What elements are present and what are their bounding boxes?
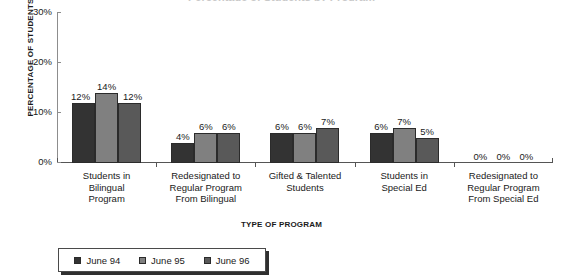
category-label-line: From Bilingual bbox=[152, 193, 259, 205]
bar-slot: 0% bbox=[515, 12, 538, 163]
x-axis-category-label: Students inBilingualProgram bbox=[53, 170, 160, 205]
bar-slot: 6% bbox=[194, 12, 217, 163]
category-label-line: Special Ed bbox=[351, 182, 458, 194]
bar-slot: 6% bbox=[370, 12, 393, 163]
category-label-line: Bilingual bbox=[53, 182, 160, 194]
bar[interactable] bbox=[118, 103, 141, 163]
bar-group-bars: 6%7%5% bbox=[355, 12, 454, 163]
bar-group-bars: 0%0%0% bbox=[454, 12, 553, 163]
bar-value-label: 7% bbox=[311, 116, 345, 127]
bar-slot: 6% bbox=[270, 12, 293, 163]
category-label-line: Students in bbox=[351, 170, 458, 182]
category-label-line: Redesignated to bbox=[450, 170, 557, 182]
bar-slot: 7% bbox=[316, 12, 339, 163]
category-label-line: Regular Program bbox=[450, 182, 557, 194]
legend-swatch-icon bbox=[74, 257, 81, 264]
category-label-line: Regular Program bbox=[152, 182, 259, 194]
bar-value-label: 12% bbox=[116, 91, 150, 102]
y-axis-tick-label: 20% bbox=[16, 56, 52, 67]
category-label-line: Gifted & Talented bbox=[251, 170, 358, 182]
x-axis-title: TYPE OF PROGRAM bbox=[0, 220, 563, 229]
legend-swatch-icon bbox=[139, 257, 146, 264]
bar-slot: 14% bbox=[95, 12, 118, 163]
bar[interactable] bbox=[316, 128, 339, 163]
bar[interactable] bbox=[95, 93, 118, 163]
legend-item[interactable]: June 94 bbox=[74, 255, 120, 266]
x-axis-tick bbox=[255, 163, 256, 167]
bar-slot: 6% bbox=[217, 12, 240, 163]
x-axis-tick bbox=[454, 163, 455, 167]
x-axis-category-label: Gifted & TalentedStudents bbox=[251, 170, 358, 193]
x-axis-tick bbox=[156, 163, 157, 167]
y-axis-tick-label: 30% bbox=[16, 6, 52, 17]
bar-group: 6%6%7% bbox=[255, 12, 354, 163]
bar[interactable] bbox=[416, 138, 439, 163]
x-axis-category-label: Redesignated toRegular ProgramFrom Speci… bbox=[450, 170, 557, 205]
bar[interactable] bbox=[72, 103, 95, 163]
y-axis-tick-label: 10% bbox=[16, 106, 52, 117]
bar[interactable] bbox=[217, 133, 240, 163]
category-label-line: Redesignated to bbox=[152, 170, 259, 182]
bar-group-bars: 12%14%12% bbox=[57, 12, 156, 163]
category-label-line: Students in bbox=[53, 170, 160, 182]
bar-value-label: 12% bbox=[64, 91, 98, 102]
y-axis-title: PERCENTAGE OF STUDENTS bbox=[26, 0, 35, 143]
chart-title: Percentage of Students by Program bbox=[0, 0, 563, 1]
legend-label: June 96 bbox=[216, 255, 250, 266]
legend-label: June 94 bbox=[86, 255, 120, 266]
bar-slot: 6% bbox=[293, 12, 316, 163]
bar-group: 6%7%5% bbox=[355, 12, 454, 163]
bar-slot: 4% bbox=[171, 12, 194, 163]
bar-chart: Percentage of Students by Program PERCEN… bbox=[0, 0, 563, 280]
category-label-line: Students bbox=[251, 182, 358, 194]
bar[interactable] bbox=[293, 133, 316, 163]
x-axis-category-label: Students inSpecial Ed bbox=[351, 170, 458, 193]
bar-value-label: 5% bbox=[410, 126, 444, 137]
category-label-line: From Special Ed bbox=[450, 193, 557, 205]
bar-group: 4%6%6% bbox=[156, 12, 255, 163]
bar-value-label: 6% bbox=[212, 121, 246, 132]
category-label-line: Program bbox=[53, 193, 160, 205]
bar-group: 0%0%0% bbox=[454, 12, 553, 163]
bar-group-bars: 6%6%7% bbox=[255, 12, 354, 163]
legend-item[interactable]: June 95 bbox=[139, 255, 185, 266]
chart-legend: June 94June 95June 96 bbox=[58, 248, 266, 272]
bar-slot: 0% bbox=[469, 12, 492, 163]
bar-group-bars: 4%6%6% bbox=[156, 12, 255, 163]
legend-swatch-icon bbox=[204, 257, 211, 264]
bar-value-label: 0% bbox=[509, 151, 543, 162]
bar[interactable] bbox=[270, 133, 293, 163]
y-axis-tick-label: 0% bbox=[16, 156, 52, 167]
x-axis-tick bbox=[355, 163, 356, 167]
bar[interactable] bbox=[171, 143, 194, 163]
bar-group: 12%14%12% bbox=[57, 12, 156, 163]
x-axis-category-label: Redesignated toRegular ProgramFrom Bilin… bbox=[152, 170, 259, 205]
bar-slot: 12% bbox=[118, 12, 141, 163]
bar[interactable] bbox=[370, 133, 393, 163]
bar-slot: 5% bbox=[416, 12, 439, 163]
legend-label: June 95 bbox=[151, 255, 185, 266]
bar-slot: 7% bbox=[393, 12, 416, 163]
bar[interactable] bbox=[194, 133, 217, 163]
bar-slot: 0% bbox=[492, 12, 515, 163]
legend-item[interactable]: June 96 bbox=[204, 255, 250, 266]
